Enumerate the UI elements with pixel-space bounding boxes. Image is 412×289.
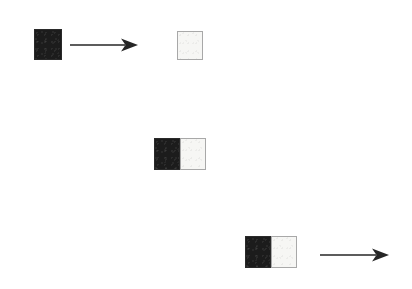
cell-white-top [177,31,203,60]
cell-white-bottom [271,236,297,268]
cell-black-bottom [245,236,271,268]
cell-black-middle [154,138,180,170]
figure-canvas [0,0,412,289]
arrow-right-top [70,35,138,55]
arrow-right-bottom [320,245,389,265]
cell-black-top [34,29,62,60]
cell-white-middle [180,138,206,170]
